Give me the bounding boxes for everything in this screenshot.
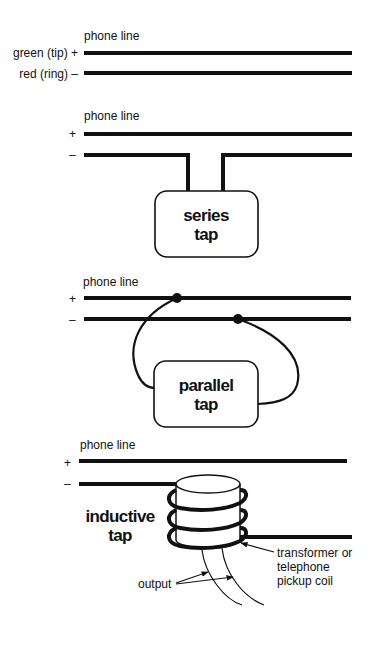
output-lead-2	[222, 548, 264, 605]
output-label: output	[138, 577, 172, 591]
coil-label-2: telephone	[277, 560, 330, 574]
parallel-junction-minus	[233, 314, 243, 324]
series-minus-label: –	[69, 148, 76, 162]
panel-series-tap: phone line + – series tap	[69, 109, 352, 257]
panel-parallel-tap: phone line + – parallel tap	[69, 275, 351, 427]
parallel-plus-label: +	[69, 292, 76, 306]
parallel-minus-label: –	[69, 313, 76, 327]
inductive-tap-label-2: tap	[108, 526, 132, 545]
phone-line-title: phone line	[84, 29, 140, 43]
parallel-junction-plus	[172, 293, 182, 303]
ring-label: red (ring) –	[19, 67, 78, 81]
series-phone-line-title: phone line	[84, 109, 140, 123]
panel-phone-line: phone line green (tip) + red (ring) –	[13, 29, 352, 81]
coil-label-1: transformer or	[277, 546, 352, 560]
parallel-tap-label-1: parallel	[179, 376, 234, 395]
inductive-plus-label: +	[64, 456, 71, 470]
output-arrow-1	[176, 572, 208, 583]
pickup-coil	[169, 475, 246, 548]
output-lead-1	[202, 550, 242, 605]
panel-inductive-tap: phone line + – inductive tap transformer…	[64, 438, 352, 605]
series-plus-label: +	[69, 127, 76, 141]
series-minus-wire-right	[223, 155, 352, 191]
series-minus-wire-left	[84, 155, 188, 191]
series-tap-label-1: series	[183, 206, 229, 225]
series-tap-label-2: tap	[194, 225, 218, 244]
wiretap-diagram: phone line green (tip) + red (ring) – ph…	[0, 0, 379, 648]
coil-label-3: pickup coil	[277, 574, 333, 588]
tip-label: green (tip) +	[13, 46, 78, 60]
inductive-tap-label-1: inductive	[85, 507, 154, 526]
inductive-phone-line-title: phone line	[80, 438, 136, 452]
coil-callout-arrow	[241, 543, 274, 552]
inductive-minus-label: –	[64, 477, 71, 491]
parallel-phone-line-title: phone line	[83, 275, 139, 289]
parallel-tap-label-2: tap	[194, 395, 218, 414]
